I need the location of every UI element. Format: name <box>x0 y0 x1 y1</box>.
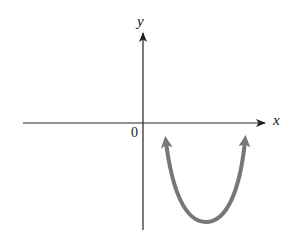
y-axis-label: y <box>137 14 144 29</box>
x-axis-label: x <box>273 113 280 128</box>
origin-label: 0 <box>131 126 138 140</box>
coordinate-diagram: y x 0 <box>0 0 293 233</box>
parabola-right-branch <box>206 141 245 222</box>
graph-canvas <box>0 0 293 233</box>
parabola-left-branch <box>166 142 206 222</box>
